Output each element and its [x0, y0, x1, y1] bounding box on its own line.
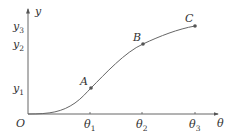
origin-label: O — [16, 117, 25, 130]
x-tick-1-label: θ1 — [84, 118, 95, 132]
point-a-label: A — [79, 75, 88, 88]
y-axis-label: y — [34, 5, 42, 18]
y-tick-1-label: y1 — [12, 82, 24, 97]
x-tick-3-label: θ3 — [189, 118, 201, 132]
y-tick-2-label: y2 — [12, 38, 24, 53]
point-b — [141, 42, 145, 46]
curve-diagram: y θ O A B C y1 y2 y3 θ1 θ2 θ3 — [0, 0, 231, 132]
point-c-label: C — [185, 12, 194, 25]
y-tick-3-label: y3 — [12, 20, 24, 35]
point-b-label: B — [132, 31, 141, 44]
x-axis-label: θ — [217, 117, 224, 130]
x-tick-2-label: θ2 — [136, 118, 148, 132]
point-a — [89, 86, 93, 90]
function-curve — [28, 26, 195, 114]
point-c — [193, 24, 197, 28]
